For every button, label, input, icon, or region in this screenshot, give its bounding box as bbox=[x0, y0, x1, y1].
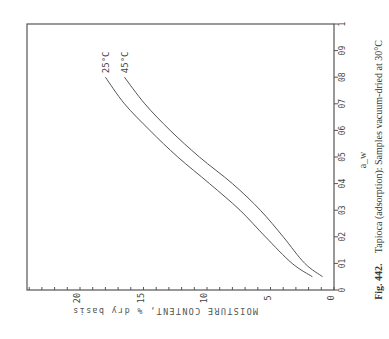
caption-text: Tapioca (adsorption): Samples vacuum-dri… bbox=[373, 40, 385, 253]
aw-tick-label: 09 bbox=[338, 46, 347, 56]
y-axis-label: MOISTURE CONTENT, % dry basis bbox=[72, 306, 258, 316]
curve-25c bbox=[105, 77, 312, 277]
moisture-tick-label: 0 bbox=[326, 295, 336, 300]
aw-tick-label: 1 bbox=[338, 21, 347, 26]
svg-text:Fig. 442. Tapioca (adsor: Fig. 442. Tapioca (adsorption): Samples … bbox=[373, 40, 385, 300]
moisture-tick-label: 5 bbox=[263, 295, 273, 300]
x-axis-label: a_w bbox=[357, 151, 368, 168]
aw-tick-label: 08 bbox=[338, 72, 347, 82]
curve-label: 25°C bbox=[101, 52, 111, 74]
moisture-tick-label: 20 bbox=[72, 293, 82, 303]
curve-45c bbox=[125, 77, 323, 277]
x-axis-aw-ticks: 00102030405060708091 bbox=[334, 21, 347, 292]
moisture-sorption-chart: 00102030405060708091 05101520 25°C45°C a… bbox=[0, 0, 389, 339]
curve-label: 45°C bbox=[120, 52, 130, 74]
aw-tick-label: 07 bbox=[338, 99, 347, 109]
moisture-tick-label: 10 bbox=[199, 293, 209, 303]
moisture-tick-label: 15 bbox=[136, 293, 146, 303]
caption-number: Fig. 442. bbox=[373, 263, 384, 300]
aw-tick-label: 03 bbox=[338, 205, 347, 215]
aw-tick-label: 02 bbox=[338, 232, 347, 242]
aw-tick-label: 01 bbox=[338, 258, 347, 268]
aw-tick-label: 0 bbox=[338, 287, 347, 292]
aw-tick-label: 06 bbox=[338, 125, 347, 135]
aw-tick-label: 04 bbox=[338, 179, 347, 189]
aw-tick-label: 05 bbox=[338, 152, 347, 162]
curves: 25°C45°C bbox=[101, 52, 322, 277]
plot-frame bbox=[27, 24, 334, 290]
figure-caption: Fig. 442. Tapioca (adsorption): Samples … bbox=[373, 40, 385, 300]
